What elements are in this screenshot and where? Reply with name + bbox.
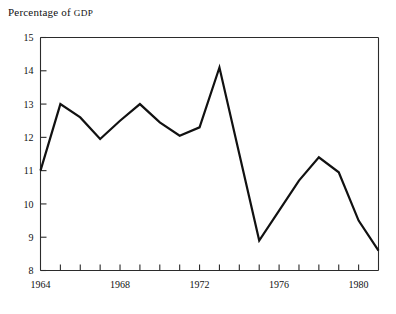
x-axis-tick-label: 1976 xyxy=(269,279,289,290)
axis-ticks-group xyxy=(41,38,359,271)
chart-figure: Percentage of GDP 89101112131415 1964196… xyxy=(0,0,396,314)
data-line-percentage-of-gdp xyxy=(41,67,379,250)
line-chart-plot: 89101112131415 19641968197219761980 xyxy=(0,0,396,314)
x-axis-tick-label: 1980 xyxy=(349,279,369,290)
y-axis-tick-label: 8 xyxy=(29,265,34,276)
axes-group xyxy=(41,38,379,271)
y-axis-tick-label: 9 xyxy=(29,232,34,243)
x-axis-tick-labels: 19641968197219761980 xyxy=(31,279,369,290)
y-axis-tick-label: 15 xyxy=(24,32,34,43)
x-axis-tick-label: 1964 xyxy=(31,279,51,290)
y-axis-tick-label: 14 xyxy=(24,65,34,76)
x-axis-tick-label: 1972 xyxy=(190,279,210,290)
y-axis-tick-label: 12 xyxy=(24,132,34,143)
x-axis-tick-label: 1968 xyxy=(110,279,130,290)
y-axis-tick-label: 13 xyxy=(24,99,34,110)
data-series-group xyxy=(41,67,379,250)
y-axis-tick-label: 11 xyxy=(24,165,34,176)
caption-sliver-cropped xyxy=(10,307,160,314)
y-axis-tick-labels: 89101112131415 xyxy=(24,32,34,276)
y-axis-tick-label: 10 xyxy=(24,199,34,210)
